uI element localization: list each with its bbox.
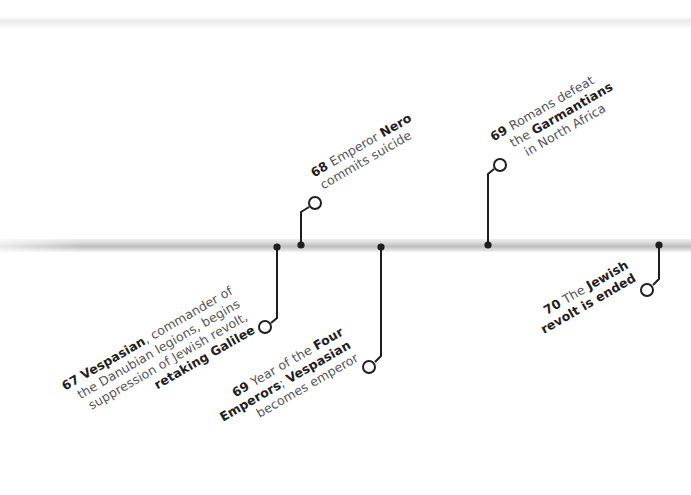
- event-dot-69a: [377, 243, 384, 250]
- event-dot-67: [273, 243, 280, 250]
- connector-68-nero: [301, 197, 321, 245]
- event-dot-70: [655, 241, 662, 248]
- connector-69-four-emperors: [363, 247, 381, 373]
- connector-70-jewish-revolt: [641, 245, 659, 296]
- event-dot-69b: [484, 241, 491, 248]
- connector-69-garmantians: [488, 159, 506, 245]
- connector-67-vespasian: [259, 247, 277, 333]
- event-dot-68: [297, 241, 304, 248]
